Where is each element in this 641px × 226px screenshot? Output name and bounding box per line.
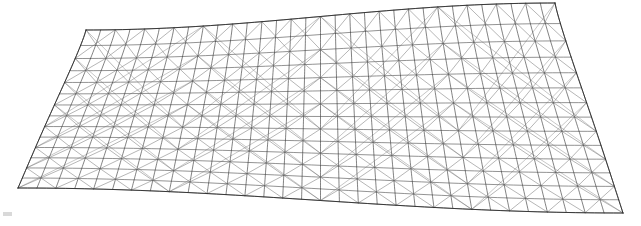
diagonal-bracing-left-group <box>18 3 614 213</box>
corner-artifact-mark <box>3 212 12 216</box>
wireframe-canvas <box>0 0 641 226</box>
saddle-gridshell-svg <box>0 0 641 226</box>
